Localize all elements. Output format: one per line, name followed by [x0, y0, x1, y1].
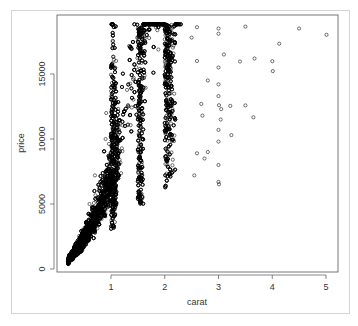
scatter-plot: 12345 050001000015000 carat price	[0, 0, 358, 326]
y-tick-label: 15000	[37, 61, 47, 86]
y-axis: 050001000015000	[37, 61, 54, 271]
x-tick-label: 3	[216, 282, 221, 292]
y-tick-label: 5000	[37, 194, 47, 214]
x-tick-label: 5	[323, 282, 328, 292]
plot-area	[57, 15, 338, 272]
y-tick-label: 0	[37, 266, 47, 271]
x-tick-label: 2	[162, 282, 167, 292]
y-tick-label: 10000	[37, 126, 47, 151]
x-tick-label: 4	[270, 282, 275, 292]
y-axis-title: price	[16, 133, 26, 153]
x-axis-title: carat	[187, 297, 208, 307]
x-axis: 12345	[108, 275, 328, 292]
x-tick-label: 1	[108, 282, 113, 292]
